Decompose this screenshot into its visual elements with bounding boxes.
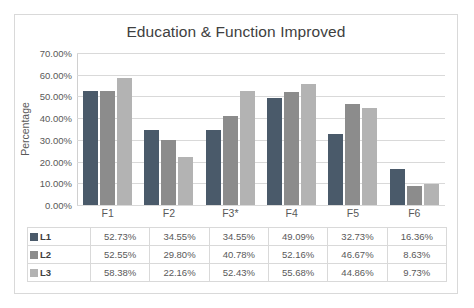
y-axis-tick: 60.00% [40, 69, 72, 80]
y-axis-tick: 10.00% [40, 178, 72, 189]
y-axis-tick: 20.00% [40, 156, 72, 167]
bar-groups [77, 53, 445, 205]
bar [284, 92, 299, 205]
legend-swatch-icon [30, 233, 38, 241]
bar-group [138, 53, 199, 205]
table-cell: 49.09% [268, 228, 327, 246]
bar [178, 157, 193, 205]
table-cell: 29.80% [150, 246, 209, 264]
table-cell: 34.55% [209, 228, 268, 246]
table-row: L252.55%29.80%40.78%52.16%46.67%8.63% [28, 246, 447, 264]
x-axis-label: F3* [200, 207, 261, 219]
bar [328, 134, 343, 205]
x-axis-label: F1 [77, 207, 138, 219]
legend-swatch-icon [30, 269, 38, 277]
bar [117, 78, 132, 205]
bar-group [261, 53, 322, 205]
table-cell: 52.16% [268, 246, 327, 264]
table-cell: 52.43% [209, 264, 268, 282]
legend-swatch-icon [30, 251, 38, 259]
table-row: L152.73%34.55%34.55%49.09%32.73%16.36% [28, 228, 447, 246]
chart-card: Education & Function Improved Percentage… [14, 14, 458, 294]
legend-entry: L2 [28, 246, 91, 264]
table-cell: 22.16% [150, 264, 209, 282]
table-cell: 52.73% [91, 228, 150, 246]
bar [240, 91, 255, 205]
table-cell: 8.63% [387, 246, 446, 264]
table-cell: 55.68% [268, 264, 327, 282]
y-axis-tick: 50.00% [40, 91, 72, 102]
bar [345, 104, 360, 205]
x-axis-label: F4 [261, 207, 322, 219]
table-cell: 32.73% [328, 228, 387, 246]
legend-entry: L3 [28, 264, 91, 282]
table-cell: 16.36% [387, 228, 446, 246]
bar-group [384, 53, 445, 205]
bar-group [77, 53, 138, 205]
bar [144, 130, 159, 205]
bar [390, 169, 405, 205]
bar [407, 186, 422, 205]
table-cell: 9.73% [387, 264, 446, 282]
table-cell: 46.67% [328, 246, 387, 264]
y-axis-tick: 70.00% [40, 48, 72, 59]
bar [206, 130, 221, 205]
data-table: L152.73%34.55%34.55%49.09%32.73%16.36%L2… [27, 227, 447, 282]
bar [100, 91, 115, 205]
table-row: L358.38%22.16%52.43%55.68%44.86%9.73% [28, 264, 447, 282]
x-axis-label: F5 [322, 207, 383, 219]
legend-entry: L1 [28, 228, 91, 246]
legend-label: L2 [40, 249, 51, 260]
chart-title: Education & Function Improved [15, 23, 457, 41]
legend-label: L3 [40, 267, 51, 278]
x-axis-label: F2 [138, 207, 199, 219]
x-axis-labels: F1F2F3*F4F5F6 [77, 207, 445, 219]
table-cell: 44.86% [328, 264, 387, 282]
bar-group [200, 53, 261, 205]
table-cell: 52.55% [91, 246, 150, 264]
legend-label: L1 [40, 231, 51, 242]
y-axis-tick: 30.00% [40, 134, 72, 145]
bar-group [322, 53, 383, 205]
x-axis-label: F6 [384, 207, 445, 219]
table-cell: 40.78% [209, 246, 268, 264]
bar [267, 98, 282, 205]
table-cell: 34.55% [150, 228, 209, 246]
y-axis-title: Percentage [19, 53, 33, 205]
bar [362, 108, 377, 205]
table-cell: 58.38% [91, 264, 150, 282]
bar [301, 84, 316, 205]
bar [83, 91, 98, 205]
bar [223, 116, 238, 205]
plot-area: 0.00%10.00%20.00%30.00%40.00%50.00%60.00… [77, 53, 445, 205]
bar [161, 140, 176, 205]
y-axis-tick: 40.00% [40, 113, 72, 124]
bar [424, 184, 439, 205]
y-axis-tick: 0.00% [45, 200, 72, 211]
gridline: 0.00% [77, 205, 445, 206]
